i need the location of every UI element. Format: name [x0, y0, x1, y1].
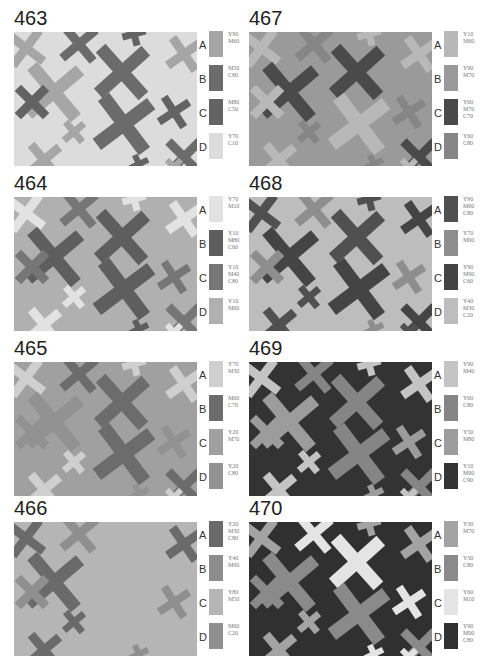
panel-number: 470 — [249, 498, 282, 518]
swatch-color-codes: Y50 M80 — [463, 429, 474, 443]
swatch-row-a: AY20 M30 C80 — [199, 521, 245, 549]
swatch-row-c: CY60 M70 C70 — [434, 99, 480, 127]
color-swatch — [209, 429, 223, 455]
swatch-row-a: AY70 M10 — [199, 196, 245, 224]
color-swatch — [209, 133, 223, 159]
swatch-letter: D — [199, 142, 207, 153]
swatch-row-d: DM60 C20 — [199, 623, 245, 651]
color-panel-465: 465 AY70 M30BM60 C70CY20 M70DY20 C80 — [0, 330, 245, 493]
swatch-letter: B — [199, 74, 206, 85]
swatch-row-a: AY90 M60 C80 — [434, 196, 480, 224]
color-swatch — [209, 99, 223, 125]
swatch-color-codes: Y10 M60 — [463, 31, 474, 45]
swatch-letter: A — [434, 205, 441, 216]
color-panel-469: 469 AY90 M40BY60 C80CY50 M80DY10 M90 C90 — [245, 330, 490, 493]
color-swatch — [444, 395, 458, 421]
swatch-letter: A — [199, 530, 206, 541]
swatch-letter: C — [199, 273, 207, 284]
swatch-letter: C — [199, 438, 207, 449]
swatch-letter: D — [199, 307, 207, 318]
swatch-letter: D — [434, 632, 442, 643]
color-swatch — [444, 298, 458, 324]
swatch-row-d: DY90 M90 C80 — [434, 623, 480, 651]
color-swatch — [209, 31, 223, 57]
swatch-color-codes: Y60 M10 — [463, 589, 474, 603]
color-swatch — [209, 65, 223, 91]
swatch-row-d: DY10 M60 — [199, 298, 245, 326]
swatch-color-codes: Y70 C10 — [228, 133, 238, 147]
color-swatch — [209, 623, 223, 649]
swatch-color-codes: Y10 M40 C80 — [228, 264, 239, 285]
swatch-row-c: CY80 M50 — [199, 589, 245, 617]
color-swatch — [444, 133, 458, 159]
swatch-color-codes: M80 C50 — [228, 99, 239, 113]
swatch-color-codes: Y60 C80 — [463, 133, 473, 147]
panel-number: 466 — [14, 498, 47, 518]
swatch-row-c: CY50 M80 — [434, 429, 480, 457]
pattern-image — [14, 197, 197, 331]
swatch-color-codes: Y10 M90 C90 — [463, 463, 474, 484]
swatch-letter: B — [434, 74, 441, 85]
swatch-color-codes: Y90 M60 — [228, 31, 239, 45]
swatch-color-codes: Y90 M40 — [463, 361, 474, 375]
swatch-letter: D — [434, 142, 442, 153]
swatch-row-c: CY60 M10 — [434, 589, 480, 617]
swatch-row-c: CM80 C50 — [199, 99, 245, 127]
pattern-image — [249, 32, 432, 166]
swatch-row-b: BM50 C80 — [199, 65, 245, 93]
swatch-letter: C — [434, 598, 442, 609]
swatch-letter: C — [434, 273, 442, 284]
color-swatch — [444, 521, 458, 547]
color-swatch — [209, 555, 223, 581]
swatch-letter: A — [434, 370, 441, 381]
swatch-letter: D — [434, 472, 442, 483]
swatch-legend: AY90 M40BY60 C80CY50 M80DY10 M90 C90 — [434, 361, 480, 495]
swatch-color-codes: Y90 M90 C60 — [463, 264, 474, 285]
swatch-letter: A — [199, 370, 206, 381]
pattern-image — [249, 197, 432, 331]
swatch-row-a: AY10 M60 — [434, 31, 480, 59]
swatch-letter: D — [199, 632, 207, 643]
color-panel-467: 467 AY10 M60BY90 M70CY60 M70 C70DY60 C80 — [245, 0, 490, 163]
swatch-row-b: BY30 C80 — [434, 555, 480, 583]
swatch-color-codes: Y30 C80 — [463, 555, 473, 569]
color-swatch — [444, 31, 458, 57]
color-swatch — [444, 264, 458, 290]
swatch-letter: B — [199, 239, 206, 250]
color-swatch — [444, 65, 458, 91]
swatch-letter: A — [434, 40, 441, 51]
swatch-row-b: BY10 M80 C60 — [199, 230, 245, 258]
swatch-letter: C — [434, 438, 442, 449]
swatch-letter: C — [199, 108, 207, 119]
swatch-legend: AY70 M10BY10 M80 C60CY10 M40 C80DY10 M60 — [199, 196, 245, 330]
swatch-letter: A — [199, 205, 206, 216]
swatch-row-d: DY10 M90 C90 — [434, 463, 480, 491]
color-swatch — [444, 429, 458, 455]
color-swatch — [444, 99, 458, 125]
swatch-color-codes: Y90 M60 C80 — [463, 196, 474, 217]
color-swatch — [444, 361, 458, 387]
swatch-color-codes: Y90 M90 C80 — [463, 623, 474, 644]
color-panel-468: 468 AY90 M60 C80BY70 M90CY90 M90 C60DY40… — [245, 165, 490, 328]
swatch-row-b: BY40 M90 — [199, 555, 245, 583]
swatch-color-codes: Y80 M50 — [228, 589, 239, 603]
swatch-legend: AY70 M30BM60 C70CY20 M70DY20 C80 — [199, 361, 245, 495]
swatch-row-d: DY60 C80 — [434, 133, 480, 161]
color-chart-grid: 463 AY90 M60BM50 C80CM80 C50DY70 C10 467… — [0, 0, 490, 665]
swatch-row-a: AY70 M30 — [199, 361, 245, 389]
panel-number: 468 — [249, 173, 282, 193]
color-swatch — [444, 555, 458, 581]
swatch-color-codes: M50 C80 — [228, 65, 239, 79]
swatch-legend: AY10 M60BY90 M70CY60 M70 C70DY60 C80 — [434, 31, 480, 165]
pattern-image — [249, 362, 432, 496]
pattern-image — [14, 32, 197, 166]
swatch-letter: B — [434, 564, 441, 575]
swatch-letter: B — [434, 404, 441, 415]
swatch-letter: C — [199, 598, 207, 609]
swatch-color-codes: Y70 M30 — [228, 361, 239, 375]
color-swatch — [209, 230, 223, 256]
swatch-legend: AY90 M60BM50 C80CM80 C50DY70 C10 — [199, 31, 245, 165]
color-swatch — [444, 623, 458, 649]
pattern-image — [14, 522, 197, 656]
swatch-color-codes: Y70 M10 — [228, 196, 239, 210]
